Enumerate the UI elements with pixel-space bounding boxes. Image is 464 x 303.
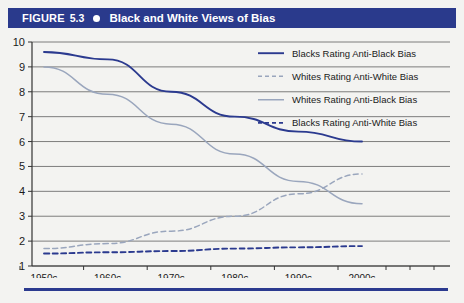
- bullet-dot-icon: [93, 15, 100, 22]
- x-axis-ticks: 1950s1960s1970s1980s1990s2000s: [20, 266, 434, 278]
- y-tick-label: 3: [19, 210, 25, 222]
- x-tick-label: 1950s: [30, 273, 57, 278]
- x-tick-label: 1960s: [94, 273, 121, 278]
- y-tick-label: 4: [19, 185, 25, 197]
- figure-label: FIGURE: [22, 12, 65, 24]
- x-tick-label: 1990s: [285, 273, 312, 278]
- y-tick-label: 2: [19, 235, 25, 247]
- legend-label-2: Whites Rating Anti-Black Bias: [292, 94, 417, 105]
- y-tick-label: 7: [19, 111, 25, 123]
- figure-container: FIGURE 5.3 Black and White Views of Bias…: [0, 0, 464, 303]
- figure-title: Black and White Views of Bias: [109, 12, 275, 24]
- y-tick-label: 6: [19, 136, 25, 148]
- y-tick-label: 5: [19, 160, 25, 172]
- legend-label-1: Whites Rating Anti-White Bias: [292, 71, 418, 82]
- y-tick-label: 9: [19, 61, 25, 73]
- legend-label-0: Blacks Rating Anti-Black Bias: [292, 48, 416, 59]
- figure-number: 5.3: [70, 12, 85, 24]
- data-series-group: [44, 52, 362, 254]
- x-tick-label: 1980s: [221, 273, 248, 278]
- bottom-rule-divider: [24, 288, 448, 291]
- series-line-2: [44, 67, 362, 204]
- series-line-1: [44, 174, 362, 249]
- line-chart-svg: 12345678910 1950s1960s1970s1980s1990s200…: [0, 28, 464, 278]
- y-tick-label: 10: [13, 36, 25, 48]
- x-tick-label: 2000s: [348, 273, 375, 278]
- x-tick-label: 1970s: [158, 273, 185, 278]
- series-line-3: [44, 246, 362, 253]
- legend-label-3: Blacks Rating Anti-White Bias: [292, 117, 417, 128]
- figure-header-bar: FIGURE 5.3 Black and White Views of Bias: [8, 8, 456, 28]
- y-tick-label: 8: [19, 86, 25, 98]
- y-axis-ticks: 12345678910: [13, 36, 32, 272]
- chart-plot-area: 12345678910 1950s1960s1970s1980s1990s200…: [0, 28, 464, 278]
